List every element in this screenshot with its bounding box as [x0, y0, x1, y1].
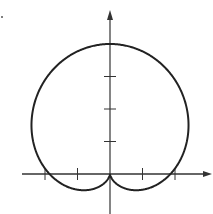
polar-plot	[0, 0, 213, 214]
y-axis-arrow-icon	[107, 10, 113, 20]
x-axis-arrow-icon	[203, 171, 212, 177]
